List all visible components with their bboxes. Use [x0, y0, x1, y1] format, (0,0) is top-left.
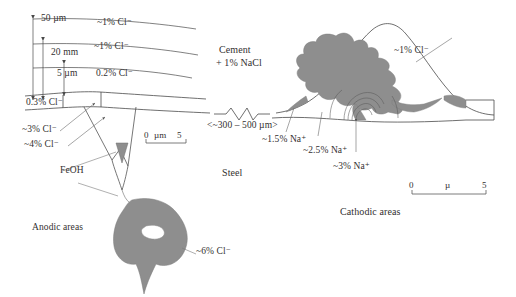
label-na-25: ~2.5% Na⁺ — [303, 145, 347, 157]
gap-break-symbol — [214, 108, 270, 120]
right-scale-five: 5 — [482, 180, 487, 191]
label-anodic-areas: Anodic areas — [32, 222, 83, 234]
pit-callout-arrows — [60, 103, 116, 171]
feoh-leader — [122, 190, 130, 203]
left-dimension-lines — [33, 19, 64, 100]
feoh-pointer — [78, 183, 118, 196]
label-cl-3: ~3% Cl⁻ — [22, 124, 57, 136]
label-cl-6: ~6% Cl⁻ — [196, 246, 231, 258]
corrosion-diagram-canvas — [0, 0, 516, 297]
label-cl-top-1: ~1% Cl⁻ — [97, 17, 132, 29]
anodic-corrosion-blob — [113, 199, 187, 295]
right-scale-unit: µ — [445, 180, 450, 191]
label-na-15: ~1.5% Na⁺ — [262, 134, 306, 146]
label-gap-distance: <~300 – 500 µm> — [207, 120, 278, 132]
label-feoh: FeOH — [60, 165, 84, 177]
label-dim-50um: 50 µm — [41, 13, 66, 25]
corrosion-pit — [84, 107, 136, 190]
label-cl-1-right: ~1% Cl⁻ — [394, 45, 429, 57]
left-scale-unit: µm — [154, 130, 166, 141]
right-scale-zero: 0 — [409, 180, 414, 191]
label-dim-5um: 5 µm — [57, 68, 77, 80]
label-cl-02: 0.2% Cl⁻ — [96, 68, 133, 80]
label-na-3: ~3% Na⁺ — [333, 161, 370, 173]
left-scale-zero: 0 — [144, 130, 149, 141]
label-cl-03: 0.3% Cl⁻ — [26, 97, 63, 109]
label-cement-line2: + 1% NaCl — [216, 57, 262, 70]
label-dim-20mm: 20 mm — [51, 47, 78, 59]
label-cement-line1: Cement — [219, 44, 251, 57]
label-steel: Steel — [222, 167, 243, 180]
left-scale-five: 5 — [177, 130, 182, 141]
pit-deposit — [116, 143, 128, 163]
label-cl-4: ~4% Cl⁻ — [24, 139, 59, 151]
label-cl-top-2: ~1% Cl⁻ — [94, 41, 129, 53]
label-cathodic-areas: Cathodic areas — [340, 206, 401, 219]
